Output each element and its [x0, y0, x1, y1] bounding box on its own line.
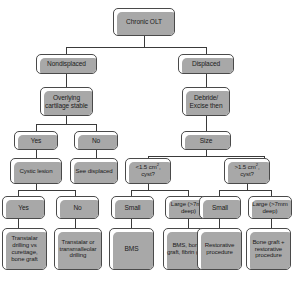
node-nondisplaced-label: Nondisplaced — [39, 60, 94, 67]
node-treatment-bms[interactable]: BMS — [109, 228, 154, 270]
node-large-b[interactable]: Large (>7mm deep) — [248, 196, 292, 219]
node-treatment-transtalar-curettage[interactable]: Transtalar drilling vs curettage, bone g… — [2, 228, 47, 270]
connector-displaced-down — [206, 74, 207, 87]
node-size[interactable]: Size — [181, 131, 231, 150]
connector-yes-l1-down — [36, 150, 37, 158]
node-nondisplaced[interactable]: Nondisplaced — [36, 54, 97, 74]
connector-level1-bus — [66, 47, 206, 48]
node-treatment-restorative-label: Restorative procedure — [200, 242, 239, 256]
node-chronic-olt-label: Chronic OLT — [116, 18, 172, 25]
node-yes-level1-label: Yes — [17, 137, 55, 144]
connector-cartilage-down — [66, 116, 67, 124]
node-cyst-large-question-label: >1.5 cm2, cyst? — [227, 164, 267, 178]
connector-debride-down — [206, 116, 207, 131]
connector-small-a-down — [131, 219, 132, 228]
connector-large-a-down — [188, 219, 189, 228]
node-debride-excise[interactable]: Debride/ Excise then — [182, 87, 230, 116]
node-treatment-bonegraft-restorative-label: Bone graft + restorative procedure — [249, 239, 288, 259]
node-small-b-label: Small — [202, 204, 238, 211]
connector-large-b-down — [271, 219, 272, 228]
node-displaced-label: Displaced — [181, 60, 231, 67]
node-cystic-lesion-label: Cystic lesion — [13, 168, 59, 175]
node-treatment-transtalar-transmalleolar-label: Transtalar or transmalleolar drilling — [57, 239, 99, 259]
connector-to-displaced — [206, 47, 207, 54]
node-treatment-transtalar-curettage-label: Transtalar drilling vs curettage, bone g… — [5, 235, 44, 262]
connector-smalllarge-b-bus — [219, 190, 271, 191]
connector-smalllarge-a-bus — [131, 190, 188, 191]
node-chronic-olt[interactable]: Chronic OLT — [113, 8, 175, 36]
connector-nondisplaced-down — [66, 74, 67, 87]
node-yes-level2[interactable]: Yes — [2, 196, 45, 219]
node-cyst-small-question[interactable]: <1.5 cm2, cyst? — [125, 158, 171, 184]
node-treatment-restorative[interactable]: Restorative procedure — [197, 228, 242, 270]
node-overlying-cartilage-stable-label: Overlying cartilage stable — [43, 94, 90, 109]
node-debride-excise-label: Debride/ Excise then — [185, 94, 227, 109]
node-large-b-label: Large (>7mm deep) — [251, 201, 289, 215]
node-yes-level1[interactable]: Yes — [14, 131, 58, 150]
node-small-b[interactable]: Small — [199, 196, 241, 219]
connector-yesno-bus — [36, 124, 96, 125]
node-cyst-small-question-label: <1.5 cm2, cyst? — [128, 164, 168, 178]
node-size-label: Size — [184, 137, 228, 144]
node-treatment-bonegraft-restorative[interactable]: Bone graft + restorative procedure — [246, 228, 291, 270]
node-see-displaced-label: See displaced — [73, 168, 115, 175]
node-displaced[interactable]: Displaced — [178, 54, 234, 74]
node-yes-level2-label: Yes — [5, 204, 42, 211]
node-no-level2[interactable]: No — [56, 196, 99, 219]
connector-to-no-l1 — [96, 124, 97, 131]
node-cyst-large-question[interactable]: >1.5 cm2, cyst? — [224, 158, 270, 184]
node-no-level1-label: No — [77, 137, 115, 144]
connector-to-nondisplaced — [66, 47, 67, 54]
connector-no-l1-down — [96, 150, 97, 158]
node-small-a[interactable]: Small — [111, 196, 154, 219]
connector-small-b-down — [219, 219, 220, 228]
flowchart-canvas: Chronic OLT Nondisplaced Displaced Overl… — [0, 0, 293, 283]
node-cystic-lesion[interactable]: Cystic lesion — [10, 158, 62, 184]
node-no-level1[interactable]: No — [74, 131, 118, 150]
node-overlying-cartilage-stable[interactable]: Overlying cartilage stable — [40, 87, 93, 116]
node-treatment-transtalar-transmalleolar[interactable]: Transtalar or transmalleolar drilling — [54, 228, 102, 270]
connector-to-yes-l1 — [36, 124, 37, 131]
node-no-level2-label: No — [59, 204, 96, 211]
connector-size-bus — [148, 156, 264, 157]
connector-root-down — [144, 36, 145, 47]
connector-no-l2-down — [75, 219, 76, 228]
connector-yesno-l2-bus — [18, 190, 75, 191]
node-treatment-bms-label: BMS — [112, 245, 151, 252]
node-see-displaced[interactable]: See displaced — [70, 158, 118, 184]
connector-yes-l2-down — [18, 219, 19, 228]
node-small-a-label: Small — [114, 204, 151, 211]
